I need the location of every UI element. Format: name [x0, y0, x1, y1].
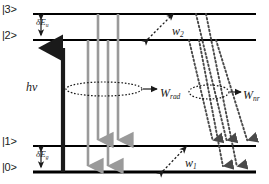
grouping-annotations — [66, 82, 241, 99]
nonradiative-arrow-4 — [199, 40, 223, 166]
w2-double-arrow — [148, 14, 173, 39]
rad-group-ellipse — [66, 82, 142, 96]
w2-label: w2 — [172, 24, 184, 39]
w1-label: w1 — [185, 156, 197, 171]
delta-e-upper-label: δEu — [36, 17, 48, 28]
radiative-decay-arrows — [88, 14, 118, 166]
nonradiative-arrow-1 — [196, 14, 227, 140]
state-label-3: |3> — [2, 3, 17, 15]
state-label-2: |2> — [2, 29, 17, 41]
nonradiative-decay-arrows — [189, 14, 247, 166]
nonradiative-arrow-3 — [189, 40, 213, 140]
state-label-1: |1> — [2, 135, 17, 147]
w-rad-label: Wrad — [160, 86, 180, 101]
state-label-0: |0> — [2, 161, 17, 173]
pump-photon-label: hν — [26, 80, 37, 95]
w1-double-arrow — [163, 147, 186, 171]
energy-level-diagram: |3> |2> |1> |0> δEu δEg hν w2 w1 Wrad Wn… — [0, 0, 269, 184]
w-nr-label: Wnr — [243, 88, 260, 103]
delta-e-ground-label: δEg — [36, 149, 48, 160]
